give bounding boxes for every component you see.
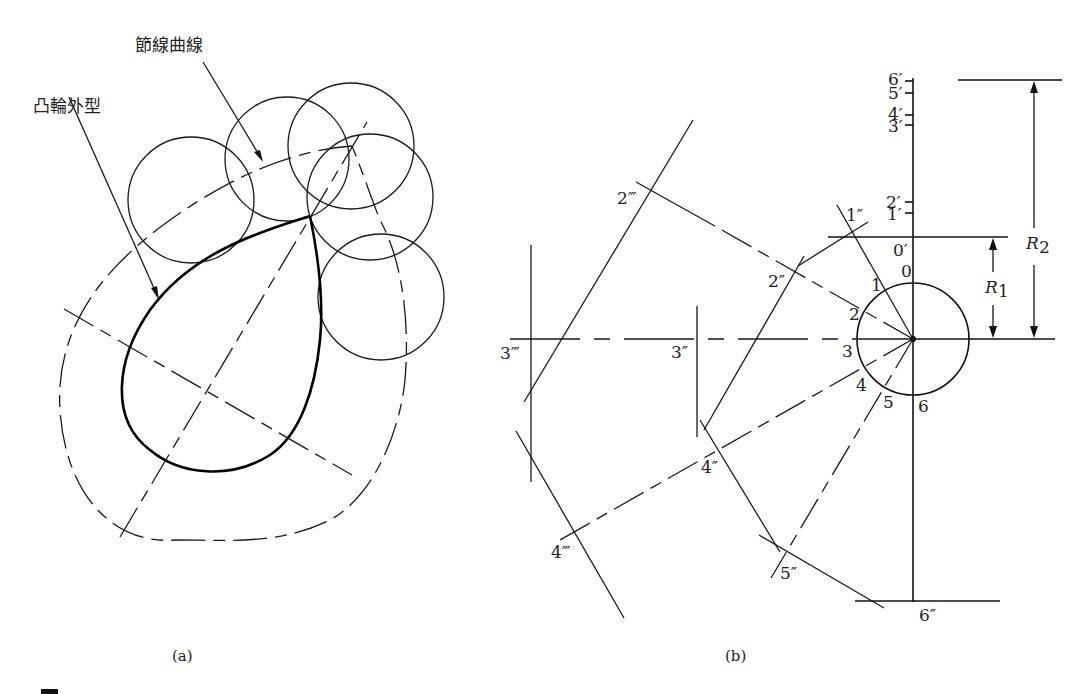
figure-b: R 1 R 2 (500, 69, 1062, 665)
roller-circle (318, 234, 444, 360)
r2-subscript: 2 (1039, 237, 1050, 257)
tangent-5 (759, 535, 884, 608)
point-2: 2 (849, 304, 860, 324)
point-1-double-prime: 1″ (846, 205, 863, 225)
radial-line-5 (771, 339, 913, 578)
point-4-triple-prime: 4‴ (551, 542, 571, 562)
tangent-2-outer (524, 120, 693, 402)
axis-line (120, 122, 367, 537)
point-4-double-prime: 4″ (701, 457, 718, 477)
axis-ticks (905, 81, 913, 213)
point-5-double-prime: 5″ (780, 563, 797, 583)
axis-line (64, 309, 352, 475)
point-2-double-prime: 2″ (768, 271, 785, 291)
point-3: 3 (842, 341, 853, 361)
arrow-head (989, 238, 997, 250)
pitch-curve-label: 節線曲線 (135, 35, 203, 55)
point-6: 6 (918, 396, 929, 416)
arrow-head (989, 326, 997, 338)
roller-circle (307, 134, 433, 260)
point-4-prime: 4′ (888, 104, 903, 124)
point-2-prime: 2′ (886, 192, 901, 212)
radial-line-2 (713, 225, 913, 339)
point-3-triple-prime: 3‴ (500, 343, 520, 363)
point-0: 0 (901, 261, 912, 281)
point-5: 5 (883, 392, 894, 412)
leader-line (203, 62, 261, 158)
cam-profile (122, 216, 321, 471)
figure-a: 節線曲線 凸輪外型 (a) (33, 35, 444, 665)
point-1: 1 (871, 275, 882, 295)
figure-b-caption: (b) (725, 647, 746, 665)
point-6-prime: 6′ (888, 69, 903, 89)
radial-line-2-ext (636, 182, 713, 225)
point-4: 4 (856, 375, 867, 395)
arrow-head (151, 286, 159, 300)
tangent-4-outer (516, 431, 624, 618)
radial-line-4 (560, 339, 913, 540)
r2-label: R (1025, 233, 1039, 253)
cam-construction-figure: 節線曲線 凸輪外型 (a) R 1 R 2 (0, 0, 1086, 694)
arrow-head (1030, 326, 1038, 338)
figure-number-marker (41, 689, 58, 694)
tangent-2 (704, 256, 804, 430)
r1-subscript: 1 (998, 281, 1009, 301)
point-3-double-prime: 3″ (671, 342, 688, 362)
point-6-double-prime: 6″ (919, 605, 936, 625)
tangent-1 (798, 222, 868, 266)
pitch-curve (60, 146, 407, 540)
leader-line (69, 97, 157, 295)
point-2-triple-prime: 2‴ (617, 188, 637, 208)
figure-a-caption: (a) (172, 647, 193, 665)
r1-label: R (984, 277, 998, 297)
arrow-head (254, 150, 263, 162)
arrow-head (1030, 81, 1038, 93)
cam-profile-label: 凸輪外型 (33, 96, 101, 116)
tangent-4 (700, 420, 780, 552)
point-0-prime: 0′ (893, 240, 908, 260)
